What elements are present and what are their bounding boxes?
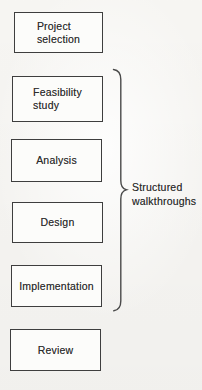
structured-walkthroughs-label: Structured walkthroughs bbox=[132, 181, 196, 208]
brace-label-line: Structured bbox=[132, 181, 196, 195]
curly-brace-path bbox=[114, 70, 127, 311]
brace-label-line: walkthroughs bbox=[132, 195, 196, 209]
diagram-canvas: Project selection Feasibility study Anal… bbox=[0, 0, 202, 390]
